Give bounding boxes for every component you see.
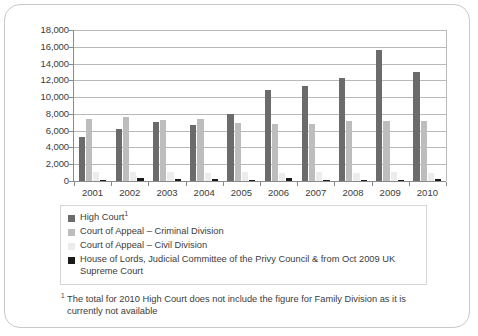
bar bbox=[279, 173, 285, 181]
bar bbox=[100, 180, 106, 181]
legend-swatch-coa-criminal bbox=[68, 229, 75, 236]
y-axis-tick-mark bbox=[69, 64, 73, 65]
y-axis-tick-mark bbox=[69, 30, 73, 31]
x-axis-tick-label: 2006 bbox=[260, 188, 297, 198]
plot-right-edge bbox=[446, 30, 447, 181]
legend-swatch-coa-civil bbox=[68, 243, 75, 250]
y-axis-tick-mark bbox=[69, 97, 73, 98]
y-axis-tick-label: 10,000 bbox=[41, 92, 69, 102]
x-axis-tick-label: 2005 bbox=[223, 188, 260, 198]
bar bbox=[153, 122, 159, 181]
bar bbox=[339, 78, 345, 181]
x-axis-tick-mark bbox=[297, 182, 298, 186]
y-axis-tick-mark bbox=[69, 164, 73, 165]
bar bbox=[137, 178, 143, 181]
bar-group bbox=[372, 30, 409, 181]
plot-area: 2001200220032004200520062007200820092010 bbox=[73, 30, 446, 182]
x-axis-tick-mark bbox=[260, 182, 261, 186]
x-axis-tick-mark bbox=[409, 182, 410, 186]
footnote-text: The total for 2010 High Court does not i… bbox=[65, 294, 406, 316]
x-axis-tick-label: 2008 bbox=[334, 188, 371, 198]
bar bbox=[265, 90, 271, 181]
bar bbox=[249, 180, 255, 182]
y-axis-labels: 18,00016,00014,00012,00010,0008,0006,000… bbox=[23, 15, 69, 200]
bar bbox=[79, 137, 85, 181]
x-axis-tick-label: 2002 bbox=[111, 188, 148, 198]
bar bbox=[435, 179, 441, 181]
legend-footnote-marker: 1 bbox=[124, 210, 128, 217]
bar bbox=[167, 172, 173, 181]
bar bbox=[398, 180, 404, 181]
bar bbox=[316, 172, 322, 181]
y-axis-tick-mark bbox=[69, 114, 73, 115]
bar bbox=[286, 178, 292, 181]
bar-group bbox=[334, 30, 371, 181]
y-axis-tick-label: 16,000 bbox=[41, 42, 69, 52]
bar bbox=[197, 119, 203, 181]
y-axis-tick-label: 14,000 bbox=[41, 59, 69, 69]
bar bbox=[302, 86, 308, 181]
x-axis-tick-mark bbox=[446, 182, 447, 186]
bar-group bbox=[409, 30, 446, 181]
x-axis-tick-label: 2007 bbox=[297, 188, 334, 198]
bar bbox=[309, 124, 315, 181]
legend-item[interactable]: House of Lords, Judicial Committee of th… bbox=[68, 254, 419, 277]
bar bbox=[323, 180, 329, 181]
y-axis-tick-mark bbox=[69, 80, 73, 81]
legend-item-label: House of Lords, Judicial Committee of th… bbox=[80, 254, 419, 277]
bar bbox=[428, 173, 434, 181]
x-axis-tick-label: 2001 bbox=[74, 188, 111, 198]
chart-card: 18,00016,00014,00012,00010,0008,0006,000… bbox=[4, 4, 470, 328]
bar bbox=[391, 172, 397, 181]
bar bbox=[413, 72, 419, 181]
bar bbox=[175, 179, 181, 181]
bar bbox=[212, 179, 218, 181]
x-axis-tick-label: 2003 bbox=[148, 188, 185, 198]
bar-group bbox=[223, 30, 260, 181]
chart-legend: High Court1Court of Appeal – Criminal Di… bbox=[60, 205, 427, 285]
bar bbox=[116, 129, 122, 181]
x-axis-tick-mark bbox=[334, 182, 335, 186]
bar bbox=[235, 123, 241, 181]
bar bbox=[361, 180, 367, 181]
x-axis-tick-mark bbox=[111, 182, 112, 186]
bar bbox=[376, 50, 382, 181]
bar-group bbox=[186, 30, 223, 181]
legend-item[interactable]: Court of Appeal – Criminal Division bbox=[68, 226, 419, 238]
bar bbox=[242, 172, 248, 181]
legend-swatch-high-court bbox=[68, 215, 75, 222]
legend-item-label: Court of Appeal – Civil Division bbox=[80, 240, 207, 252]
legend-item-label: High Court1 bbox=[80, 212, 128, 224]
bar-group bbox=[148, 30, 185, 181]
y-axis-tick-label: 18,000 bbox=[41, 25, 69, 35]
x-axis-tick-mark bbox=[148, 182, 149, 186]
bar-group bbox=[111, 30, 148, 181]
bar bbox=[130, 172, 136, 181]
bar bbox=[190, 125, 196, 181]
bar bbox=[353, 173, 359, 181]
bar bbox=[205, 173, 211, 181]
x-axis-tick-label: 2004 bbox=[186, 188, 223, 198]
y-axis-tick-label: 4,000 bbox=[46, 142, 69, 152]
x-axis-tick-mark bbox=[186, 182, 187, 186]
legend-item[interactable]: Court of Appeal – Civil Division bbox=[68, 240, 419, 252]
bar bbox=[383, 121, 389, 181]
x-axis-tick-mark bbox=[74, 182, 75, 186]
bar bbox=[272, 124, 278, 181]
y-axis-tick-mark bbox=[69, 147, 73, 148]
y-axis-tick-label: 6,000 bbox=[46, 126, 69, 136]
y-axis-tick-mark bbox=[69, 47, 73, 48]
bar-group bbox=[74, 30, 111, 181]
legend-swatch-house-of-lords bbox=[68, 257, 75, 264]
x-axis-tick-mark bbox=[372, 182, 373, 186]
bar-group bbox=[297, 30, 334, 181]
legend-item-label: Court of Appeal – Criminal Division bbox=[80, 226, 224, 238]
bar bbox=[160, 120, 166, 181]
y-axis-tick-mark bbox=[69, 131, 73, 132]
bar-group bbox=[260, 30, 297, 181]
bar bbox=[123, 117, 129, 181]
legend-item[interactable]: High Court1 bbox=[68, 212, 419, 224]
bar bbox=[93, 172, 99, 181]
bar bbox=[421, 121, 427, 181]
chart-footnote: 1 The total for 2010 High Court does not… bbox=[61, 293, 435, 317]
